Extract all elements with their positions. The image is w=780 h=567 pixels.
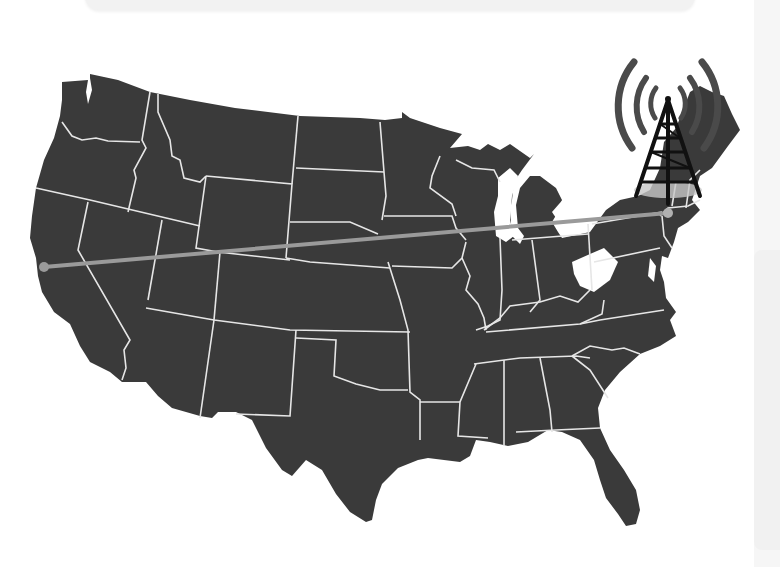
us-map <box>0 0 780 567</box>
endpoint-west-marker <box>39 262 49 272</box>
endpoint-east-marker <box>663 208 673 218</box>
